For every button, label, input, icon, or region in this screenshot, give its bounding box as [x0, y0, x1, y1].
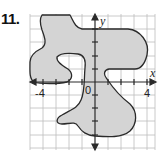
x-tick-label-neg4: -4 — [35, 87, 45, 99]
x-axis-left-arrow — [30, 79, 36, 85]
coordinate-graph: y x -4 4 0 — [0, 0, 167, 161]
origin-label: 0 — [85, 84, 91, 96]
shaded-region — [30, 15, 148, 137]
y-axis-up-arrow — [92, 14, 98, 20]
y-axis-label: y — [99, 14, 106, 28]
x-axis-label: x — [149, 66, 156, 80]
x-tick-label-4: 4 — [144, 87, 150, 99]
y-axis-down-arrow — [92, 144, 98, 150]
